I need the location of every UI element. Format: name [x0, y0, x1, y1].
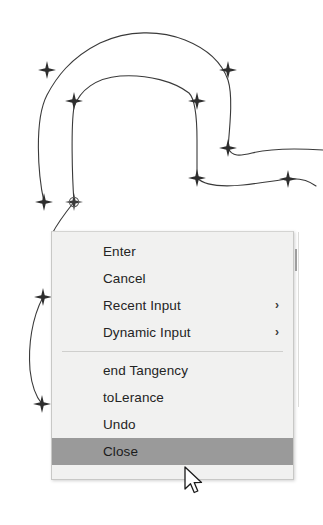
grip-marker-10[interactable]: [34, 288, 52, 306]
grip-marker-1[interactable]: [38, 61, 56, 79]
menu-item-label: toLerance: [103, 390, 164, 405]
chevron-right-icon: ›: [275, 292, 279, 319]
menu-item-recent-input[interactable]: Recent Input ›: [52, 292, 293, 319]
grip-marker-6[interactable]: [188, 169, 206, 187]
grip-marker-9[interactable]: [65, 193, 83, 211]
menu-item-label: Enter: [103, 244, 136, 259]
menu-item-label: Dynamic Input: [103, 325, 191, 340]
menu-item-label: Recent Input: [103, 298, 181, 313]
spline-inner[interactable]: [72, 76, 197, 202]
menu-item-cancel[interactable]: Cancel: [52, 265, 293, 292]
menu-item-label: end Tangency: [103, 363, 188, 378]
menu-item-enter[interactable]: Enter: [52, 238, 293, 265]
menu-item-end-tangency[interactable]: end Tangency: [52, 357, 293, 384]
menu-scrollbar[interactable]: [294, 246, 298, 371]
spline-tail-lower[interactable]: [197, 178, 316, 186]
screen-root: Enter Cancel Recent Input › Dynamic Inpu…: [0, 0, 323, 525]
grip-marker-7[interactable]: [279, 170, 297, 188]
menu-item-undo[interactable]: Undo: [52, 411, 293, 438]
spline-tail-upper[interactable]: [228, 148, 323, 155]
menu-item-label: Undo: [103, 417, 136, 432]
menu-item-close[interactable]: Close: [52, 438, 293, 465]
context-menu[interactable]: Enter Cancel Recent Input › Dynamic Inpu…: [51, 231, 294, 480]
grip-marker-8[interactable]: [35, 193, 53, 211]
menu-item-dynamic-input[interactable]: Dynamic Input ›: [52, 319, 293, 346]
spline-outer[interactable]: [38, 33, 230, 202]
grip-marker-11[interactable]: [33, 395, 51, 413]
menu-item-tolerance[interactable]: toLerance: [52, 384, 293, 411]
chevron-right-icon: ›: [275, 319, 279, 346]
menu-item-label: Close: [103, 444, 138, 459]
menu-item-label: Cancel: [103, 271, 146, 286]
menu-right-edge-line: [298, 232, 299, 407]
menu-scrollbar-thumb[interactable]: [295, 249, 297, 271]
grip-marker-4[interactable]: [219, 61, 237, 79]
menu-separator: [62, 351, 283, 352]
